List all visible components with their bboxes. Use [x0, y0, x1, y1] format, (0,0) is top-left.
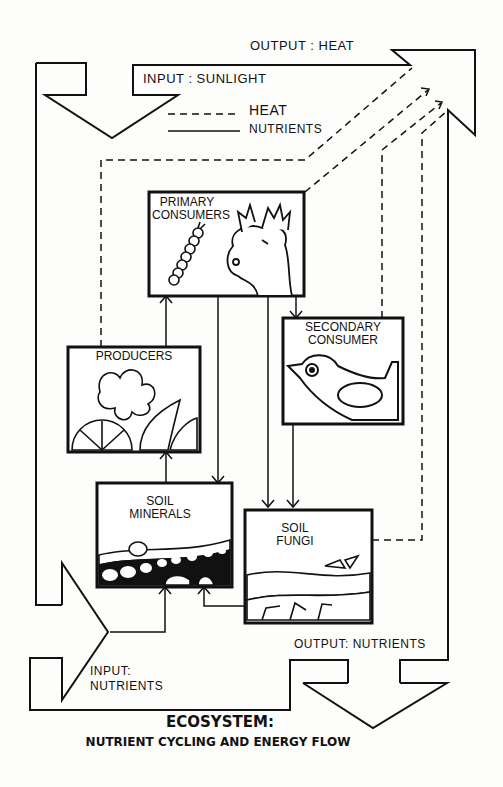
producers-line1: PRODUCERS	[70, 350, 198, 363]
secondary-consumer-label: SECONDARY CONSUMER	[285, 321, 401, 347]
diagram-canvas	[0, 0, 503, 787]
soil-fungi-to-soil-minerals	[204, 587, 245, 606]
primary-consumers-label: PRIMARY CONSUMERS	[152, 196, 222, 222]
input-sunlight-label: INPUT : SUNLIGHT	[143, 71, 266, 86]
heat-from-secondary-consumer	[382, 103, 441, 318]
producers-label: PRODUCERS	[70, 350, 198, 363]
input-nutrients-label: INPUT: NUTRIENTS	[90, 664, 163, 694]
legend-heat-label: HEAT	[249, 102, 287, 118]
input-nutrients-line1: INPUT:	[90, 664, 163, 679]
output-nutrients-label: OUTPUT: NUTRIENTS	[294, 637, 426, 651]
legend-nutrients-label: NUTRIENTS	[249, 122, 322, 136]
frame-left-edge	[36, 63, 62, 605]
soil-minerals-label: SOIL MINERALS	[110, 495, 210, 521]
soil-fungi-label: SOIL FUNGI	[265, 522, 325, 548]
primary-consumers-line2: CONSUMERS	[152, 209, 222, 222]
heat-from-primary-consumers	[305, 90, 428, 192]
input-nutrients-line2: NUTRIENTS	[90, 679, 163, 694]
secondary-consumer-line2: CONSUMER	[285, 334, 401, 347]
diagram-title: ECOSYSTEM:	[150, 713, 290, 731]
soil-fungi-line2: FUNGI	[265, 535, 325, 548]
output-heat-label: OUTPUT : HEAT	[250, 38, 354, 53]
soil-minerals-line2: MINERALS	[110, 508, 210, 521]
diagram-subtitle: NUTRIENT CYCLING AND ENERGY FLOW	[28, 735, 408, 749]
input-to-soil-minerals	[110, 587, 165, 632]
